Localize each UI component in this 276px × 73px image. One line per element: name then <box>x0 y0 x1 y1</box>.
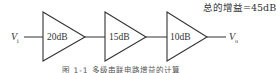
stage-2-gain-label: 15dB <box>109 32 130 42</box>
input-voltage-label: Vi <box>11 32 19 46</box>
figure-caption: 图 1-1 多级串联电路增益的计算 <box>62 66 180 73</box>
stage-1-gain-label: 20dB <box>47 32 68 42</box>
stage-3-gain-label: 10dB <box>170 32 191 42</box>
total-gain-label: 总的增益=45dB <box>203 3 276 13</box>
output-voltage-label: Vo <box>229 32 238 46</box>
